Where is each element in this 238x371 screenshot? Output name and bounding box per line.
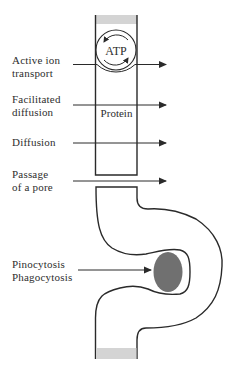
label-facilitated-diffusion: Facilitated diffusion (12, 93, 61, 119)
label-facilitated-diffusion-line2: diffusion (12, 106, 61, 119)
atp-label: ATP (105, 44, 127, 58)
label-passage-of-pore-line1: Passage (12, 168, 53, 181)
label-endocytosis: Pinocytosis Phagocytosis (12, 258, 72, 284)
label-active-ion-transport-line2: transport (12, 67, 60, 80)
label-passage-of-pore-line2: of a pore (12, 181, 53, 194)
label-phagocytosis: Phagocytosis (12, 271, 72, 284)
label-facilitated-diffusion-line1: Facilitated (12, 93, 61, 106)
protein-label: Protein (101, 107, 133, 119)
label-diffusion-line1: Diffusion (12, 136, 56, 149)
bottom-membrane-band (96, 348, 136, 359)
label-active-ion-transport-line1: Active ion (12, 54, 60, 67)
top-membrane-band (96, 15, 138, 24)
label-passage-of-pore: Passage of a pore (12, 168, 53, 194)
label-active-ion-transport: Active ion transport (12, 54, 60, 80)
engulfed-vesicle (154, 252, 183, 292)
label-pinocytosis: Pinocytosis (12, 258, 72, 271)
label-diffusion: Diffusion (12, 136, 56, 149)
